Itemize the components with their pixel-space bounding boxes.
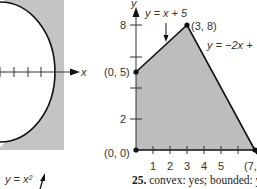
y-tick-8: 8 bbox=[120, 19, 126, 31]
point-label-7-0: (7, bbox=[244, 160, 257, 172]
exercise-number: 25. bbox=[132, 174, 146, 186]
x-tick-3: 3 bbox=[184, 160, 190, 172]
x-tick-4: 4 bbox=[201, 160, 207, 172]
left-figure: x y = x² bbox=[0, 0, 87, 189]
vertex-0-5 bbox=[133, 69, 138, 74]
point-label-3-8: (3, 8) bbox=[191, 20, 217, 32]
caption-text: convex: yes; bounded: yes; bbox=[149, 174, 257, 186]
arrow-head-icon bbox=[40, 173, 45, 181]
y-axis-label: y bbox=[130, 0, 138, 9]
caption: 25. convex: yes; bounded: yes; bbox=[132, 174, 257, 186]
line1-label: y = x + 5 bbox=[144, 7, 188, 19]
pointer-arrow-icon bbox=[164, 35, 169, 42]
figure-canvas: x y = x² y 8 2 1 2 3 4 5 bbox=[0, 0, 257, 189]
point-label-0-0: (0, 0) bbox=[104, 147, 130, 159]
curve-label: y = x² bbox=[4, 173, 33, 185]
vertex-0-0 bbox=[133, 147, 138, 152]
line2-label: y = −2x + bbox=[206, 39, 253, 51]
x-axis-label: x bbox=[80, 66, 87, 78]
right-figure: y 8 2 1 2 3 4 5 (0, 5) (3, 8) (0, 0) (7, bbox=[104, 0, 257, 172]
x-tick-1: 1 bbox=[150, 160, 156, 172]
x-tick-5: 5 bbox=[218, 160, 224, 172]
x-axis-arrow-icon bbox=[70, 69, 80, 76]
x-tick-2: 2 bbox=[167, 160, 173, 172]
point-label-0-5: (0, 5) bbox=[104, 66, 130, 78]
y-tick-2: 2 bbox=[120, 113, 126, 125]
vertex-3-8 bbox=[184, 22, 189, 27]
